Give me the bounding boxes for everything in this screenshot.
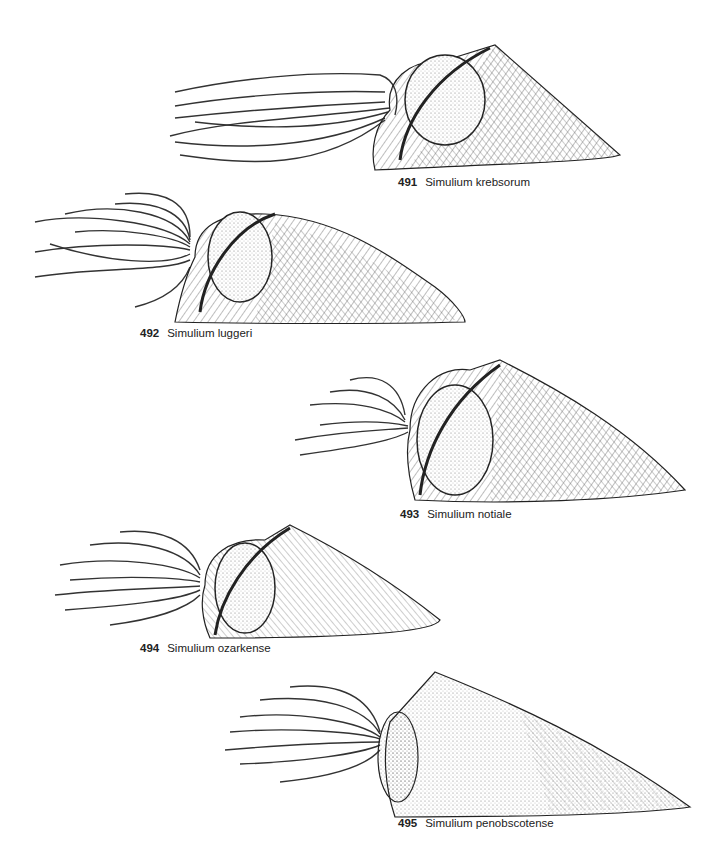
pupa-illustration-492 <box>5 182 475 327</box>
figure-491 <box>170 40 620 190</box>
figure-caption-492: 492Simulium luggeri <box>140 327 252 339</box>
figure-number: 493 <box>400 508 419 520</box>
species-name: Simulium ozarkense <box>167 642 271 654</box>
figure-495 <box>220 672 700 822</box>
figure-494 <box>50 520 450 645</box>
figure-caption-493: 493Simulium notiale <box>400 508 512 520</box>
figure-number: 494 <box>140 642 159 654</box>
figure-caption-494: 494Simulium ozarkense <box>140 642 271 654</box>
species-name: Simulium luggeri <box>167 327 252 339</box>
figure-number: 495 <box>398 817 417 829</box>
figure-number: 492 <box>140 327 159 339</box>
figure-493 <box>290 360 690 510</box>
pupa-illustration-491 <box>170 40 620 190</box>
pupa-illustration-494 <box>50 520 450 645</box>
figure-caption-495: 495Simulium penobscotense <box>398 817 554 829</box>
pupa-illustration-493 <box>290 360 690 510</box>
species-name: Simulium notiale <box>427 508 511 520</box>
pupa-illustration-495 <box>220 672 700 822</box>
figure-492 <box>5 182 475 327</box>
species-name: Simulium penobscotense <box>425 817 554 829</box>
